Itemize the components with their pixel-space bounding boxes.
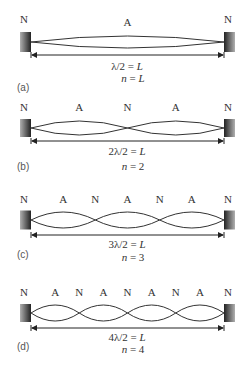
antinode-label: A xyxy=(172,101,180,113)
node-label: N xyxy=(124,286,132,298)
harmonic-number-label: n = 3 xyxy=(122,251,145,263)
node-label: N xyxy=(224,101,232,113)
panel-d: NANANANAN4λ/2 = Ln = 4(d) xyxy=(17,286,235,355)
node-label: N xyxy=(20,286,28,298)
wave-envelope-upper xyxy=(31,36,224,42)
standing-waves-diagram: NANλ/2 = Ln = L(a)NANAN2λ/2 = Ln = 2(b)N… xyxy=(0,0,250,367)
panel-tag: (a) xyxy=(17,82,29,93)
antinode-label: A xyxy=(196,286,204,298)
left-clamp xyxy=(20,32,31,52)
wavelength-equation: 4λ/2 = L xyxy=(108,331,145,343)
node-label: N xyxy=(91,193,99,205)
wave-envelope-lower xyxy=(31,42,224,48)
harmonic-number-label: n = 2 xyxy=(122,160,145,172)
panel-c: NANANAN3λ/2 = Ln = 3(c) xyxy=(17,193,235,263)
right-clamp xyxy=(224,32,235,52)
harmonic-number-label: n = 4 xyxy=(122,343,145,355)
panel-a: NANλ/2 = Ln = L(a) xyxy=(17,13,235,93)
left-clamp xyxy=(20,304,31,322)
left-clamp xyxy=(20,119,31,137)
panel-tag: (d) xyxy=(17,341,29,352)
antinode-label: A xyxy=(148,286,156,298)
wavelength-equation: λ/2 = L xyxy=(111,60,143,72)
antinode-label: A xyxy=(59,193,67,205)
panel-tag: (b) xyxy=(17,161,29,172)
panel-b: NANAN2λ/2 = Ln = 2(b) xyxy=(17,101,235,172)
right-clamp xyxy=(224,119,235,137)
node-label: N xyxy=(75,286,83,298)
right-clamp xyxy=(224,304,235,322)
antinode-label: A xyxy=(51,286,59,298)
node-label: N xyxy=(156,193,164,205)
antinode-label: A xyxy=(124,16,132,28)
wavelength-equation: 3λ/2 = L xyxy=(108,238,145,250)
wavelength-equation: 2λ/2 = L xyxy=(108,145,145,157)
harmonic-number-label: n = L xyxy=(121,72,144,84)
wave-envelope-lower xyxy=(31,212,224,228)
antinode-label: A xyxy=(188,193,196,205)
right-clamp xyxy=(224,211,235,230)
node-label: N xyxy=(20,101,28,113)
panel-tag: (c) xyxy=(17,249,29,260)
left-clamp xyxy=(20,211,31,230)
wave-envelope-upper xyxy=(31,212,224,228)
node-label: N xyxy=(172,286,180,298)
node-label: N xyxy=(224,13,232,25)
antinode-label: A xyxy=(75,101,83,113)
node-label: N xyxy=(124,101,132,113)
wave-envelope-lower xyxy=(31,121,224,135)
node-label: N xyxy=(224,286,232,298)
antinode-label: A xyxy=(99,286,107,298)
node-label: N xyxy=(20,193,28,205)
wave-envelope-lower xyxy=(31,305,224,321)
antinode-label: A xyxy=(124,193,132,205)
node-label: N xyxy=(224,193,232,205)
node-label: N xyxy=(20,13,28,25)
